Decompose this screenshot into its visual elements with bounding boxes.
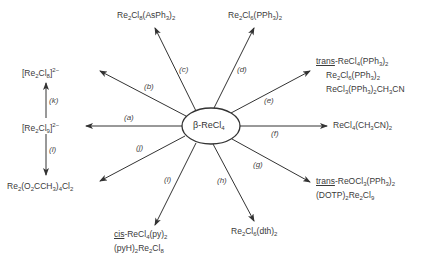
center-compound-label: β-ReCl4 xyxy=(193,120,225,130)
reaction-label-g: (g) xyxy=(253,160,263,169)
product-h: Re2Cl6(dth)2 xyxy=(231,226,277,240)
reaction-label-a: (a) xyxy=(124,113,134,122)
reaction-label-c: (c) xyxy=(179,65,188,74)
reaction-label-e: (e) xyxy=(264,96,274,105)
product-i: cis-ReCl4(py)2 (pyH)2Re2Cl8 xyxy=(114,229,167,257)
reaction-label-j: (j) xyxy=(136,143,143,152)
product-e: trans-ReCl4(PPh3)2 Re2Cl6(PPh3)2 ReCl3(P… xyxy=(316,56,405,98)
product-d: Re2Cl6(PPh3)2 xyxy=(228,10,282,24)
product-c: Re2Cl8(AsPh3)2 xyxy=(117,10,175,24)
product-k: [Re2Cl8]2− xyxy=(22,65,59,82)
reaction-label-k: (k) xyxy=(49,96,58,105)
product-f: ReCl4(CH3CN)2 xyxy=(333,120,392,134)
reaction-label-d: (d) xyxy=(237,65,247,74)
reaction-label-b: (b) xyxy=(144,82,154,91)
reaction-label-f: (f) xyxy=(271,129,279,138)
product-l: Re2(O2CCH3)4Cl2 xyxy=(7,181,73,195)
reaction-label-h: (h) xyxy=(217,176,227,185)
product-g: trans-ReOCl3(PPh3)2 (DOTP)2Re2Cl9 xyxy=(316,176,395,204)
product-a: [Re2Cl9]2− xyxy=(22,120,59,137)
reaction-label-i: (i) xyxy=(164,175,171,184)
reaction-label-l: (l) xyxy=(49,145,56,154)
center-compound: β-ReCl4 xyxy=(193,120,225,131)
